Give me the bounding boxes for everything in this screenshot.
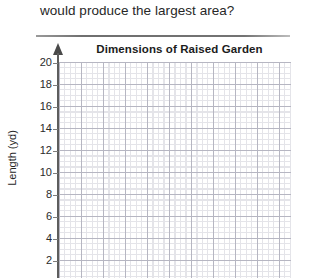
y-tick-mark [53,173,58,174]
chart-figure: Dimensions of Raised Garden Length (yd) … [0,40,315,278]
y-tick-mark [53,63,58,64]
y-tick-label: 2 [20,255,52,266]
y-tick-mark [53,239,58,240]
y-tick-label: 6 [20,211,52,222]
worksheet-page: would produce the largest area? Dimensio… [0,0,315,278]
plot-area[interactable] [59,62,291,278]
section-divider [36,35,290,37]
y-tick-label: 16 [20,101,52,112]
y-tick-label: 12 [20,145,52,156]
y-axis-tick-labels: 2018161412108642 [20,40,52,278]
y-tick-label: 18 [20,79,52,90]
y-tick-mark [53,129,58,130]
y-tick-label: 20 [20,57,52,68]
y-tick-label: 8 [20,189,52,200]
chart-title: Dimensions of Raised Garden [72,43,287,55]
question-text: would produce the largest area? [40,2,300,20]
grid-overlay [59,62,291,278]
y-tick-label: 10 [20,167,52,178]
y-tick-mark [53,107,58,108]
y-axis-label: Length (yd) [6,113,18,203]
y-tick-mark [53,85,58,86]
y-tick-mark [53,151,58,152]
y-tick-mark [53,261,58,262]
y-tick-label: 14 [20,123,52,134]
y-tick-mark [53,195,58,196]
y-tick-mark [53,217,58,218]
y-tick-label: 4 [20,233,52,244]
